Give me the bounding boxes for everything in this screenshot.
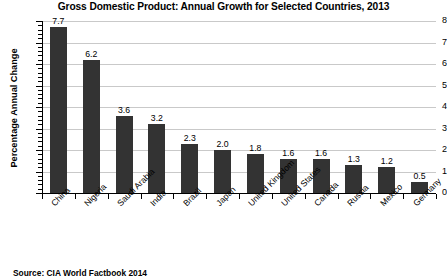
bar-value-label: 1.6 [274,148,302,158]
bar-value-label: 1.6 [307,148,335,158]
x-axis-tick [108,194,109,199]
x-axis-tick [370,194,371,199]
gridline [42,43,436,44]
x-axis-tick [206,194,207,199]
y-axis-title: Percentage Annual Change [9,28,19,188]
bar-value-label: 1.3 [340,154,368,164]
bar-value-label: 2.3 [176,133,204,143]
bar-value-label: 3.2 [143,113,171,123]
chart-figure: Gross Domestic Product: Annual Growth fo… [0,0,447,277]
gridline [42,172,436,173]
x-axis-tick [75,194,76,199]
bar-value-label: 2.0 [209,139,237,149]
x-axis-tick [42,194,43,199]
gridline [42,21,436,22]
bar [148,124,165,193]
bar-value-label: 1.2 [373,156,401,166]
x-axis-tick [338,194,339,199]
gridline [42,107,436,108]
y-axis-line [42,21,43,194]
x-axis-tick [239,194,240,199]
bar [83,60,100,193]
bar-value-label: 7.7 [44,16,72,26]
plot-area [42,21,436,193]
bar-value-label: 3.6 [110,105,138,115]
x-axis-tick [141,194,142,199]
x-axis-tick [173,194,174,199]
chart-title: Gross Domestic Product: Annual Growth fo… [0,1,447,12]
bar [116,116,133,193]
bar-value-label: 1.8 [241,143,269,153]
x-axis-tick [305,194,306,199]
gridline [42,86,436,87]
bar-value-label: 6.2 [77,49,105,59]
x-axis-tick [272,194,273,199]
gridline [42,64,436,65]
bar [50,27,67,193]
gridline [42,150,436,151]
gridline [42,129,436,130]
x-axis-tick [436,194,437,199]
bar-value-label: 0.5 [406,171,434,181]
source-note: Source: CIA World Factbook 2014 [13,268,147,277]
x-axis-tick [403,194,404,199]
